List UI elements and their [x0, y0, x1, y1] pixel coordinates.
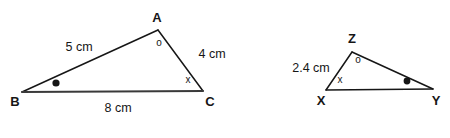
vertex-label-z: Z	[348, 32, 356, 45]
angle-mark-z-circle-icon: o	[355, 55, 361, 65]
angle-mark-c-cross-icon: x	[186, 75, 191, 85]
geometry-figure: A B C 5 cm 4 cm 8 cm o x Z X Y 2.4 cm o …	[0, 0, 450, 138]
side-label-bc: 8 cm	[104, 102, 131, 115]
angle-mark-a-circle-icon: o	[156, 38, 162, 48]
segment-bc	[22, 91, 203, 92]
angle-dot-b-icon	[52, 79, 59, 86]
angle-dot-y-icon	[404, 78, 411, 85]
side-label-ab: 5 cm	[65, 41, 92, 54]
side-label-ac: 4 cm	[198, 48, 225, 61]
segment-zy	[352, 52, 433, 89]
segment-xy	[326, 89, 433, 90]
vertex-label-c: C	[205, 95, 214, 108]
vertex-label-x: X	[317, 94, 326, 107]
angle-mark-x-cross-icon: x	[338, 75, 343, 85]
segment-ac	[158, 30, 203, 91]
triangle-abc-outline	[22, 30, 203, 92]
triangles-drawing	[0, 0, 450, 138]
side-label-xz: 2.4 cm	[292, 62, 330, 75]
vertex-label-a: A	[152, 11, 161, 24]
vertex-label-y: Y	[432, 94, 441, 107]
vertex-label-b: B	[10, 95, 19, 108]
